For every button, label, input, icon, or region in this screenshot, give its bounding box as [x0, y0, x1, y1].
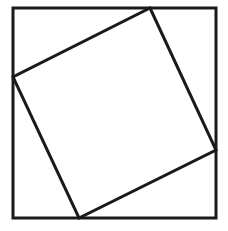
outer-square [13, 8, 216, 218]
inner-rotated-square [13, 8, 216, 218]
pythagorean-squares-figure [0, 0, 228, 231]
diagram-canvas [0, 0, 228, 231]
